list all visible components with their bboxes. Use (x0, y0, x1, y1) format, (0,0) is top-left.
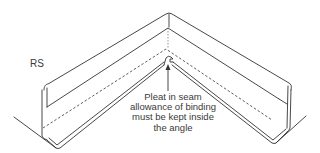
floor-line-left (14, 117, 56, 148)
annotation-line-4: the angle (123, 123, 223, 133)
pleat-detail (164, 56, 173, 65)
pleat-annotation: Pleat in seam allowance of binding must … (123, 92, 223, 133)
arrow-icon (166, 64, 171, 91)
right-side-label: RS (30, 59, 44, 69)
floor-line-right (276, 116, 306, 143)
right-wall-inner (287, 86, 288, 128)
right-wall-inner-bottom (279, 99, 287, 104)
left-wall-outer (42, 90, 47, 140)
